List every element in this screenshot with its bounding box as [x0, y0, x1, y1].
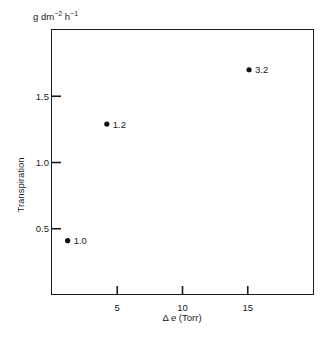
x-unit: (Torr) [176, 312, 201, 323]
data-point-label: 1.0 [74, 235, 87, 246]
y-tick-label: 1.0 [36, 157, 49, 168]
y-tick-label: 1.5 [36, 91, 49, 102]
x-tick-label: 5 [115, 302, 120, 313]
data-point [104, 121, 109, 126]
data-point [65, 238, 70, 243]
x-tick-label: 15 [242, 302, 253, 313]
data-point-label: 1.2 [113, 119, 126, 130]
y-tick-label: 0.5 [36, 223, 49, 234]
data-point [246, 67, 251, 72]
y-axis-label: Transpiration [15, 157, 26, 212]
data-point-label: 3.2 [255, 64, 268, 75]
scatter-plot: 510150.51.01.51.01.23.2 [0, 0, 330, 337]
x-axis-label: Δ e (Torr) [162, 312, 201, 323]
